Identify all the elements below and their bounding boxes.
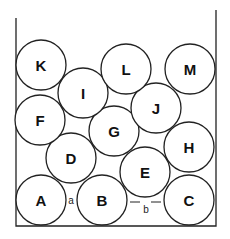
ball-l: L <box>101 44 151 94</box>
ball-label: K <box>36 57 47 74</box>
ball-e: E <box>120 147 170 197</box>
ball-packing-diagram: ABCDEFGHIJKLM ab <box>0 0 230 239</box>
ball-i: I <box>58 68 108 118</box>
ball-label: E <box>140 164 150 181</box>
ball-label: B <box>97 192 108 209</box>
ball-label: M <box>184 61 197 78</box>
ball-b: B <box>77 175 127 225</box>
gap-label-b: b <box>143 204 149 215</box>
ball-h: H <box>164 122 214 172</box>
gap-label-a: a <box>68 195 74 206</box>
ball-label: I <box>81 85 85 102</box>
ball-label: C <box>184 192 195 209</box>
ball-f: F <box>15 95 65 145</box>
balls-group: ABCDEFGHIJKLM <box>15 40 215 225</box>
ball-label: J <box>152 100 160 117</box>
ball-label: G <box>108 123 120 140</box>
ball-k: K <box>16 40 66 90</box>
ball-label: A <box>36 192 47 209</box>
ball-label: F <box>35 112 44 129</box>
ball-a: A <box>16 175 66 225</box>
ball-label: D <box>66 150 77 167</box>
ball-m: M <box>165 44 215 94</box>
ball-label: L <box>121 61 130 78</box>
ball-label: H <box>184 139 195 156</box>
ball-c: C <box>164 175 214 225</box>
